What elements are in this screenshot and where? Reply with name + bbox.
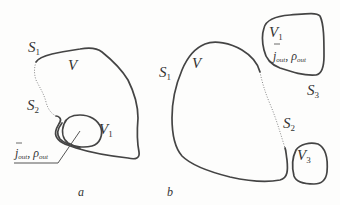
diagram-canvas: S1 V S2 V1 jout,ρout a S1 V S2 S3 V1 jou… — [0, 0, 340, 205]
panel-b-v-label: V — [192, 55, 203, 71]
panel-b-v1-label: V1 — [269, 24, 283, 42]
panel-b-caption: b — [167, 185, 173, 199]
panel-a-volume-boundary — [36, 48, 139, 159]
panel-b-surface-s2 — [260, 72, 285, 148]
panel-a-caption: a — [78, 185, 84, 199]
panel-b-v3-label: V3 — [297, 147, 311, 165]
panel-a-s2-label: S2 — [27, 97, 39, 115]
panel-b-s3-label: S3 — [307, 82, 320, 100]
panel-b-s1-label: S1 — [159, 64, 171, 82]
panel-a-v-label: V — [68, 57, 79, 73]
panel-a-v1-label: V1 — [99, 121, 113, 139]
panel-b-current-label: jout,ρout — [271, 49, 307, 64]
panel-b-s2-label: S2 — [283, 115, 295, 133]
panel-a-inner-volume-v1 — [63, 115, 102, 147]
volume-surface-diagram: S1 V S2 V1 jout,ρout a S1 V S2 S3 V1 jou… — [0, 0, 340, 205]
panel-a-s1-label: S1 — [28, 39, 40, 57]
panel-b: S1 V S2 S3 V1 jout,ρout V3 b — [159, 14, 327, 199]
panel-b-volume-boundary — [172, 42, 287, 181]
panel-b-volume-v1 — [263, 14, 325, 76]
panel-a: S1 V S2 V1 jout,ρout a — [13, 39, 139, 199]
panel-a-current-label: jout,ρout — [13, 146, 49, 161]
